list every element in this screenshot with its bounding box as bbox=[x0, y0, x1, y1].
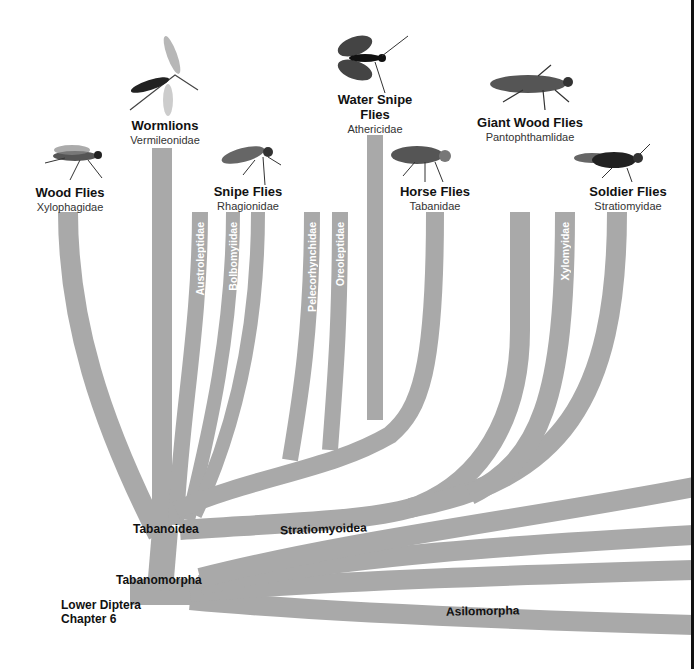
taxon-scientific-name: Stratiomyidae bbox=[578, 200, 678, 213]
label-austroleptidae: Austroleptidae bbox=[194, 222, 206, 296]
taxon-scientific-name: Rhagionidae bbox=[198, 200, 298, 213]
label-oreoleptidae: Oreoleptidae bbox=[334, 222, 346, 286]
soldier-fly-icon bbox=[572, 140, 652, 185]
label-bolbomyiidae: Bolbomyiidae bbox=[227, 222, 239, 291]
root-label-line2: Chapter 6 bbox=[61, 612, 116, 626]
taxon-common-name: Wormlions bbox=[115, 119, 215, 134]
node-label-tabanomorpha: Tabanomorpha bbox=[116, 573, 202, 587]
taxon-soldier-flies: Soldier Flies Stratiomyidae bbox=[578, 185, 678, 213]
label-xylomyidae: Xylomyidae bbox=[559, 222, 571, 280]
taxon-wormlions: Wormlions Vermileonidae bbox=[115, 119, 215, 147]
taxon-scientific-name: Athericidae bbox=[330, 123, 420, 136]
wood-fly-icon bbox=[40, 138, 110, 183]
water-snipe-fly-icon bbox=[330, 28, 410, 98]
node-label-asilomorpha: Asilomorpha bbox=[446, 603, 520, 618]
taxon-scientific-name: Pantophthamlidae bbox=[470, 131, 590, 144]
root-label: Lower Diptera Chapter 6 bbox=[61, 599, 141, 627]
taxon-common-name: Water Snipe Flies bbox=[330, 93, 420, 123]
snipe-fly-icon bbox=[213, 135, 283, 185]
taxon-common-name: Horse Flies bbox=[395, 185, 475, 200]
horse-fly-icon bbox=[385, 140, 455, 185]
taxon-water-snipe-flies: Water Snipe Flies Athericidae bbox=[330, 93, 420, 136]
taxon-common-name: Soldier Flies bbox=[578, 185, 678, 200]
taxon-snipe-flies: Snipe Flies Rhagionidae bbox=[198, 185, 298, 213]
taxon-giant-wood-flies: Giant Wood Flies Pantophthamlidae bbox=[470, 116, 590, 144]
branch-asilomorpha-1 bbox=[190, 600, 694, 625]
taxon-scientific-name: Tabanidae bbox=[395, 200, 475, 213]
taxon-wood-flies: Wood Flies Xylophagidae bbox=[20, 186, 120, 214]
taxon-common-name: Giant Wood Flies bbox=[470, 116, 590, 131]
wormlion-icon bbox=[120, 30, 200, 120]
giant-wood-fly-icon bbox=[483, 60, 578, 115]
node-label-tabanoidea: Tabanoidea bbox=[133, 522, 199, 536]
root-label-line1: Lower Diptera bbox=[61, 598, 141, 612]
taxon-common-name: Wood Flies bbox=[20, 186, 120, 201]
taxon-common-name: Snipe Flies bbox=[198, 185, 298, 200]
label-pelecorhynchidae: Pelecorhynchidae bbox=[306, 222, 318, 312]
taxon-horse-flies: Horse Flies Tabanidae bbox=[395, 185, 475, 213]
taxon-scientific-name: Vermileonidae bbox=[115, 134, 215, 147]
taxon-scientific-name: Xylophagidae bbox=[20, 201, 120, 214]
branch-wood-flies bbox=[68, 212, 158, 535]
